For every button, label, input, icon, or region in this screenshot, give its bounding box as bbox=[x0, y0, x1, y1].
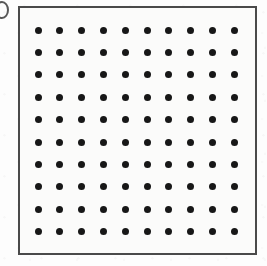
lattice-dot bbox=[122, 228, 129, 235]
lattice-dot bbox=[144, 183, 151, 190]
lattice-dot bbox=[78, 116, 85, 123]
lattice-dot bbox=[144, 49, 151, 56]
lattice-dot bbox=[122, 183, 129, 190]
lattice-dot bbox=[56, 228, 63, 235]
lattice-dot bbox=[35, 49, 42, 56]
lattice-dot bbox=[35, 183, 42, 190]
lattice-dot bbox=[165, 71, 172, 78]
lattice-dot bbox=[165, 228, 172, 235]
lattice-dot bbox=[122, 139, 129, 146]
lattice-dot bbox=[231, 49, 238, 56]
lattice-dot bbox=[165, 94, 172, 101]
lattice-dot bbox=[165, 116, 172, 123]
lattice-dot bbox=[209, 139, 216, 146]
lattice-dot bbox=[209, 161, 216, 168]
lattice-dot bbox=[78, 183, 85, 190]
lattice-dot bbox=[187, 27, 194, 34]
lattice-dot bbox=[144, 27, 151, 34]
lattice-dot bbox=[122, 94, 129, 101]
lattice-dot bbox=[35, 161, 42, 168]
grid-frame-border bbox=[18, 6, 257, 255]
lattice-dot bbox=[78, 71, 85, 78]
lattice-dot bbox=[100, 183, 107, 190]
lattice-dot bbox=[231, 183, 238, 190]
lattice-dot bbox=[187, 116, 194, 123]
lattice-dot bbox=[165, 49, 172, 56]
lattice-dot bbox=[187, 71, 194, 78]
lattice-dot bbox=[209, 27, 216, 34]
lattice-dot bbox=[100, 206, 107, 213]
lattice-dot bbox=[165, 206, 172, 213]
lattice-dot bbox=[78, 139, 85, 146]
lattice-dot bbox=[209, 228, 216, 235]
lattice-dot bbox=[100, 71, 107, 78]
lattice-dot bbox=[78, 27, 85, 34]
lattice-dot bbox=[187, 94, 194, 101]
lattice-dot bbox=[231, 139, 238, 146]
lattice-dot bbox=[56, 94, 63, 101]
lattice-dot bbox=[78, 94, 85, 101]
lattice-dot bbox=[209, 206, 216, 213]
lattice-dot bbox=[56, 27, 63, 34]
lattice-dot bbox=[100, 139, 107, 146]
lattice-dot bbox=[165, 161, 172, 168]
lattice-dot bbox=[187, 49, 194, 56]
lattice-dot bbox=[165, 139, 172, 146]
lattice-dot bbox=[231, 94, 238, 101]
lattice-dot bbox=[144, 161, 151, 168]
lattice-dot bbox=[144, 94, 151, 101]
lattice-dot bbox=[100, 116, 107, 123]
lattice-dot bbox=[56, 49, 63, 56]
lattice-dot bbox=[56, 206, 63, 213]
lattice-dot bbox=[78, 206, 85, 213]
lattice-dot bbox=[122, 116, 129, 123]
lattice-dot bbox=[78, 161, 85, 168]
lattice-dot bbox=[144, 139, 151, 146]
lattice-dot bbox=[100, 228, 107, 235]
lattice-dot bbox=[187, 228, 194, 235]
lattice-dot bbox=[122, 161, 129, 168]
lattice-dot bbox=[100, 161, 107, 168]
lattice-dot bbox=[56, 71, 63, 78]
lattice-dot bbox=[187, 139, 194, 146]
lattice-dot bbox=[56, 139, 63, 146]
figure-canvas bbox=[0, 0, 267, 266]
lattice-dot bbox=[209, 116, 216, 123]
lattice-dot bbox=[35, 206, 42, 213]
lattice-dot bbox=[187, 183, 194, 190]
lattice-dot bbox=[100, 49, 107, 56]
lattice-dot bbox=[35, 27, 42, 34]
lattice-dot bbox=[122, 49, 129, 56]
dot-lattice bbox=[20, 8, 255, 253]
lattice-dot bbox=[187, 206, 194, 213]
lattice-dot bbox=[231, 27, 238, 34]
lattice-dot bbox=[165, 27, 172, 34]
lattice-dot bbox=[231, 71, 238, 78]
lattice-dot bbox=[144, 116, 151, 123]
lattice-dot bbox=[35, 139, 42, 146]
lattice-dot bbox=[209, 183, 216, 190]
lattice-dot bbox=[144, 228, 151, 235]
lattice-dot bbox=[56, 183, 63, 190]
lattice-dot bbox=[78, 49, 85, 56]
lattice-dot bbox=[209, 49, 216, 56]
lattice-dot bbox=[56, 161, 63, 168]
lattice-dot bbox=[209, 71, 216, 78]
lattice-dot bbox=[122, 71, 129, 78]
lattice-dot bbox=[231, 161, 238, 168]
lattice-dot bbox=[231, 116, 238, 123]
lattice-dot bbox=[231, 206, 238, 213]
lattice-dot bbox=[231, 228, 238, 235]
lattice-dot bbox=[35, 228, 42, 235]
lattice-dot bbox=[165, 183, 172, 190]
lattice-dot bbox=[35, 94, 42, 101]
lattice-dot bbox=[122, 27, 129, 34]
lattice-dot bbox=[122, 206, 129, 213]
lattice-dot bbox=[209, 94, 216, 101]
lattice-dot bbox=[144, 71, 151, 78]
lattice-dot bbox=[100, 27, 107, 34]
lattice-dot bbox=[35, 71, 42, 78]
lattice-dot bbox=[144, 206, 151, 213]
lattice-dot bbox=[187, 161, 194, 168]
lattice-dot bbox=[78, 228, 85, 235]
